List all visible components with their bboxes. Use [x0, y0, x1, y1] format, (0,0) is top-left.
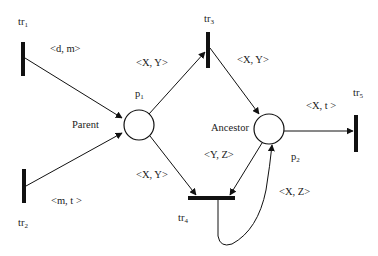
diagram-graphics	[0, 0, 378, 256]
transition-tr1	[21, 42, 25, 76]
label-p1: p1	[135, 89, 144, 101]
label-tr4: tr4	[178, 213, 188, 225]
transition-tr4	[188, 196, 235, 200]
label-ancestor: Ancestor	[211, 123, 249, 134]
arc-p1-tr4	[150, 136, 196, 195]
label-tr1: tr1	[18, 17, 28, 29]
label-tr3: tr3	[204, 14, 214, 26]
label-tr5: tr5	[353, 88, 363, 100]
place-p1	[124, 110, 154, 140]
arc-label-p2-tr4: <Y, Z>	[204, 150, 234, 161]
arc-tr1-p1	[25, 58, 122, 118]
place-p2	[254, 114, 284, 144]
arc-p2-tr4	[230, 143, 262, 195]
petri-net-diagram: tr1 tr2 tr3 tr4 tr5 p1 p2 Parent Ancesto…	[0, 0, 378, 256]
label-p2: p2	[291, 152, 300, 164]
transition-tr5	[354, 115, 358, 152]
label-tr2: tr2	[18, 218, 28, 230]
transition-tr3	[206, 32, 210, 68]
arc-tr2-p1	[26, 133, 122, 186]
arc-label-p1-tr4: <X, Y>	[136, 170, 168, 181]
arc-label-p2-tr5: <X, t >	[306, 101, 336, 112]
transition-tr2	[22, 169, 26, 203]
label-parent: Parent	[72, 120, 99, 131]
arc-label-tr1-p1: <d, m>	[50, 44, 81, 55]
arc-label-tr4-p2: <X, Z>	[279, 187, 310, 198]
arc-label-p1-tr3: <X, Y>	[136, 58, 168, 69]
arc-label-tr2-p1: <m, t >	[51, 196, 82, 207]
arc-label-tr3-p2: <X, Y>	[237, 55, 269, 66]
